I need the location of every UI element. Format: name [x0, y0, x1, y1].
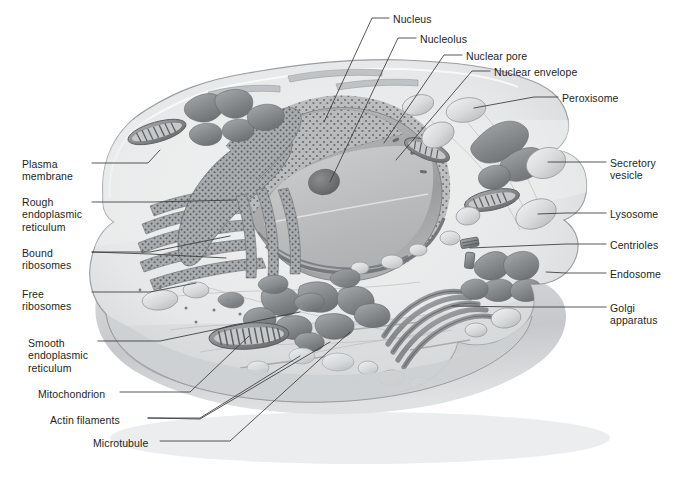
label-nuclear-envelope: Nuclear envelope	[494, 66, 577, 78]
label-peroxisome: Peroxisome	[562, 92, 618, 104]
label-nucleolus: Nucleolus	[420, 33, 467, 45]
label-bound-ribosomes: Bound ribosomes	[22, 247, 71, 272]
label-layer: Plasma membrane Rough endoplasmic reticu…	[0, 0, 682, 478]
label-secretory-vesicle: Secretory vesicle	[610, 157, 656, 182]
label-free-ribosomes: Free ribosomes	[22, 288, 71, 313]
label-plasma-membrane: Plasma membrane	[22, 158, 73, 183]
label-nucleus: Nucleus	[393, 13, 432, 25]
label-centrioles: Centrioles	[610, 239, 658, 251]
label-smooth-er: Smooth endoplasmic reticulum	[28, 337, 88, 374]
label-actin-filaments: Actin filaments	[50, 414, 120, 426]
label-mitochondrion: Mitochondrion	[38, 388, 105, 400]
label-nuclear-pore: Nuclear pore	[466, 50, 527, 62]
label-rough-er: Rough endoplasmic reticulum	[22, 196, 82, 233]
label-golgi-apparatus: Golgi apparatus	[610, 302, 658, 327]
label-lysosome: Lysosome	[610, 208, 658, 220]
label-endosome: Endosome	[610, 268, 661, 280]
label-microtubule: Microtubule	[93, 437, 148, 449]
cell-diagram-figure: Plasma membrane Rough endoplasmic reticu…	[0, 0, 682, 478]
